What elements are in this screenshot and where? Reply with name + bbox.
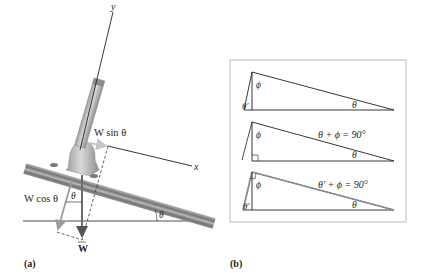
w-cos-vector [58,180,72,229]
y-axis-label: y [110,1,116,12]
panel-a-label: (a) [24,258,36,270]
t1-angle-left: θ′ [242,101,249,111]
t2-angle-right: θ [352,150,357,160]
t1-angle-right: θ [352,100,357,110]
angle-theta-incline: θ [159,210,164,220]
w-vector-label: W [78,243,88,254]
t3-angle-left: θ′ [243,201,250,211]
x-axis-label: x [193,161,199,172]
angle-theta-vectors: θ [71,191,76,201]
x-axis [108,146,192,166]
panel-a: y x W sin θ W cos θ W θ θ (a) [23,1,216,270]
t3-angle-top: ϕ [256,180,261,190]
figure-canvas: y x W sin θ W cos θ W θ θ (a) θ [0,0,425,273]
w-sin-label: W sin θ [94,127,126,138]
t1-angle-top: ϕ [256,80,261,90]
t3-angle-right: θ [352,200,357,210]
panel-b-label: (b) [230,258,242,270]
t2-equation: θ + ϕ = 90° [318,129,366,140]
w-cos-label: W cos θ [24,193,58,204]
panel-b: θ′ ϕ θ ϕ θ θ + ϕ = 90° θ′ ϕ θ θ′ + ϕ = 9… [230,60,406,270]
t2-angle-top: ϕ [256,130,261,140]
dashed-line-bottom [57,232,82,240]
t3-equation: θ′ + ϕ = 90° [318,179,368,190]
